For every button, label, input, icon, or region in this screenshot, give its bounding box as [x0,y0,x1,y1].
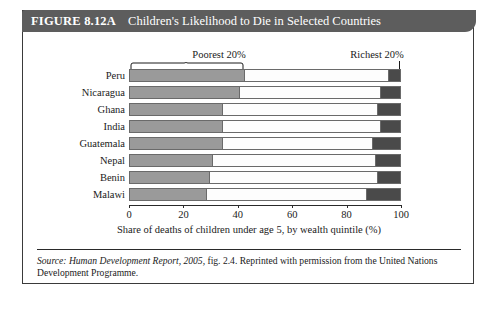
segment-middle [223,104,377,115]
stacked-bar [129,120,401,133]
segment-middle [223,138,371,149]
source-note: Source: Human Development Report, 2005, … [37,255,461,279]
chart-area: Poorest 20% Richest 20% PeruNicaraguaGha… [23,33,475,245]
country-label: Peru [5,69,125,82]
stacked-bar [129,137,401,150]
bar-row: Ghana [129,103,401,116]
x-axis-tick-label: 100 [386,209,416,220]
country-label: Nepal [5,154,125,167]
country-label: Malawi [5,188,125,201]
x-axis-tick [292,205,293,208]
segment-middle [240,87,380,98]
segment-middle [213,155,375,166]
stacked-bar [129,69,401,82]
x-axis-tick-label: 80 [332,209,362,220]
segment-richest [378,172,400,183]
x-axis-tick [129,205,130,208]
stacked-bar [129,103,401,116]
x-axis-tick-label: 40 [223,209,253,220]
segment-richest [381,121,400,132]
richest-annotation-label: Richest 20% [323,49,431,60]
segment-middle [223,121,380,132]
segment-poorest [130,138,222,149]
stacked-bar [129,154,401,167]
segment-richest [378,104,400,115]
country-label: India [5,120,125,133]
figure-container: FIGURE 8.12A Children's Likelihood to Di… [22,10,474,284]
country-label: Guatemala [5,137,125,150]
bar-row: Benin [129,171,401,184]
segment-richest [389,70,400,81]
figure-number-label: FIGURE 8.12A [22,14,116,29]
stacked-bar [129,171,401,184]
segment-poorest [130,70,244,81]
segment-poorest [130,104,222,115]
poorest-brace-icon [130,62,244,69]
source-prefix: Source: [37,255,69,266]
segment-middle [207,189,366,200]
country-label: Benin [5,171,125,184]
country-label: Ghana [5,103,125,116]
x-axis-tick [183,205,184,208]
bar-row: Nepal [129,154,401,167]
source-publication: Human Development Report, 2005, [69,255,205,266]
x-axis-tick [238,205,239,208]
bar-row: Peru [129,69,401,82]
bar-row: Guatemala [129,137,401,150]
bars-plot: PeruNicaraguaGhanaIndiaGuatemalaNepalBen… [129,69,401,205]
source-divider [37,249,461,250]
bar-row: Nicaragua [129,86,401,99]
segment-richest [376,155,400,166]
country-label: Nicaragua [5,86,125,99]
x-axis-tick-label: 60 [277,209,307,220]
segment-richest [381,87,400,98]
poorest-annotation-label: Poorest 20% [129,49,309,60]
segment-poorest [130,189,206,200]
segment-richest [367,189,400,200]
bar-row: Malawi [129,188,401,201]
segment-richest [373,138,400,149]
segment-poorest [130,155,212,166]
segment-middle [210,172,377,183]
figure-title-banner: FIGURE 8.12A Children's Likelihood to Di… [22,10,476,32]
x-axis-line [129,205,401,206]
bar-row: India [129,120,401,133]
stacked-bar [129,86,401,99]
x-axis-tick-label: 20 [168,209,198,220]
segment-poorest [130,87,239,98]
figure-page: FIGURE 8.12A Children's Likelihood to Di… [0,0,501,316]
x-axis-title: Share of deaths of children under age 5,… [23,224,475,235]
figure-title: Children's Likelihood to Die in Selected… [116,14,381,29]
segment-middle [245,70,388,81]
x-axis-tick-label: 0 [114,209,144,220]
stacked-bar [129,188,401,201]
x-axis-tick [401,205,402,208]
x-axis-tick [347,205,348,208]
segment-poorest [130,172,209,183]
segment-poorest [130,121,222,132]
